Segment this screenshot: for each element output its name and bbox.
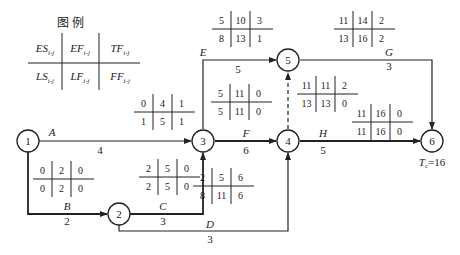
svg-text:5: 5 (160, 116, 165, 127)
svg-text:2: 2 (342, 80, 347, 91)
svg-text:10: 10 (236, 15, 246, 26)
svg-text:0: 0 (256, 106, 261, 117)
svg-text:5: 5 (218, 88, 223, 99)
param-grid-d: 2568116 (193, 168, 254, 204)
duration-g: 3 (386, 60, 392, 72)
duration-c: 3 (160, 215, 166, 227)
svg-text:3: 3 (200, 135, 206, 147)
svg-text:11: 11 (339, 15, 349, 26)
legend-tf: TFi-j (110, 42, 129, 57)
svg-text:1: 1 (179, 116, 184, 127)
svg-text:6: 6 (429, 135, 435, 147)
duration-d: 3 (207, 233, 213, 245)
svg-text:8: 8 (200, 190, 205, 201)
label-g: G (385, 46, 393, 58)
svg-text:14: 14 (358, 15, 368, 26)
svg-text:5: 5 (285, 54, 291, 66)
svg-text:0: 0 (342, 98, 347, 109)
svg-text:0: 0 (78, 165, 83, 176)
svg-text:0: 0 (40, 165, 45, 176)
svg-text:0: 0 (397, 108, 402, 119)
svg-text:5: 5 (165, 163, 170, 174)
svg-text:11: 11 (302, 80, 312, 91)
node-4[interactable]: 4 (277, 130, 299, 152)
svg-text:1: 1 (25, 135, 31, 147)
svg-text:4: 4 (285, 135, 291, 147)
param-grid-dummy: 1111213130 (297, 76, 358, 112)
duration-b: 2 (64, 215, 70, 227)
svg-text:2: 2 (200, 172, 205, 183)
svg-text:2: 2 (146, 181, 151, 192)
svg-text:2: 2 (59, 165, 64, 176)
svg-text:11: 11 (321, 80, 331, 91)
node-5[interactable]: 5 (277, 49, 299, 71)
svg-text:2: 2 (116, 208, 122, 220)
svg-text:0: 0 (40, 183, 45, 194)
svg-text:11: 11 (357, 108, 367, 119)
label-b: B (64, 200, 71, 212)
label-a: A (48, 126, 56, 138)
svg-text:6: 6 (238, 190, 243, 201)
svg-text:13: 13 (236, 33, 246, 44)
svg-text:6: 6 (238, 172, 243, 183)
node-2[interactable]: 2 (108, 203, 130, 225)
node-3[interactable]: 3 (192, 130, 214, 152)
param-grid-g: 1114213162 (334, 11, 395, 47)
svg-text:16: 16 (358, 33, 368, 44)
param-grid-f: 51105110 (211, 84, 272, 120)
legend: 图 例 ESi-j EFi-j TFi-j LSi-j LFi-j FFi-j (28, 16, 140, 90)
svg-text:2: 2 (146, 163, 151, 174)
node-1[interactable]: 1 (17, 130, 39, 152)
legend-lf: LFi-j (69, 70, 89, 85)
duration-f: 6 (243, 144, 249, 156)
svg-text:1: 1 (179, 98, 184, 109)
svg-text:0: 0 (141, 98, 146, 109)
svg-text:2: 2 (59, 183, 64, 194)
svg-text:11: 11 (357, 126, 367, 137)
param-grid-a: 041151 (134, 94, 195, 130)
svg-text:13: 13 (321, 98, 331, 109)
param-grid-h: 1116011160 (352, 104, 413, 140)
svg-text:2: 2 (379, 15, 384, 26)
param-grid-e: 51038131 (212, 11, 273, 47)
svg-text:13: 13 (339, 33, 349, 44)
duration-e: 5 (235, 63, 241, 75)
svg-text:0: 0 (256, 88, 261, 99)
tc-label: Tc=16 (419, 156, 446, 170)
svg-text:2: 2 (379, 33, 384, 44)
time-parameter-grids: 0411510200202502502568116510381315110511… (33, 11, 413, 204)
svg-text:5: 5 (165, 181, 170, 192)
label-e: E (199, 46, 207, 58)
svg-text:5: 5 (218, 106, 223, 117)
svg-text:16: 16 (376, 108, 386, 119)
label-c: C (159, 200, 167, 212)
svg-text:11: 11 (217, 190, 227, 201)
param-grid-c: 250250 (139, 159, 200, 195)
label-f: F (242, 127, 250, 139)
duration-a: 4 (97, 144, 103, 156)
label-d: D (205, 218, 214, 230)
legend-title: 图 例 (57, 16, 84, 30)
svg-text:0: 0 (184, 163, 189, 174)
legend-ef: EFi-j (69, 42, 90, 57)
svg-text:1: 1 (257, 33, 262, 44)
svg-text:13: 13 (302, 98, 312, 109)
legend-ls: LSi-j (35, 70, 54, 85)
svg-text:0: 0 (184, 181, 189, 192)
svg-text:4: 4 (160, 98, 165, 109)
legend-es: ESi-j (35, 42, 55, 57)
svg-text:1: 1 (141, 116, 146, 127)
svg-text:5: 5 (219, 172, 224, 183)
svg-text:11: 11 (235, 88, 245, 99)
label-h: H (318, 127, 328, 139)
svg-text:3: 3 (257, 15, 262, 26)
svg-text:0: 0 (78, 183, 83, 194)
svg-text:8: 8 (219, 33, 224, 44)
svg-text:0: 0 (397, 126, 402, 137)
param-grid-b: 020020 (33, 161, 94, 197)
duration-h: 5 (320, 144, 326, 156)
node-6[interactable]: 6 (421, 130, 443, 152)
svg-text:11: 11 (235, 106, 245, 117)
legend-ff: FFi-j (109, 70, 130, 85)
network-diagram: 图 例 ESi-j EFi-j TFi-j LSi-j LFi-j FFi-j (0, 0, 460, 255)
